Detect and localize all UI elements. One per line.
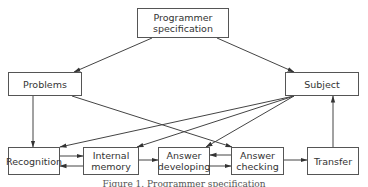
node-problems: Problems xyxy=(8,72,82,96)
figure-caption: Figure 1. Programmer specification xyxy=(0,179,368,187)
node-transfer: Transfer xyxy=(307,147,359,175)
node-answer-checking: Answer checking xyxy=(231,147,284,175)
node-internal-memory: Internal memory xyxy=(83,147,139,175)
node-answer-developing: Answer developing xyxy=(158,147,210,175)
node-subject: Subject xyxy=(285,72,359,96)
node-programmer-specification: Programmer specification xyxy=(137,8,229,38)
node-recognition: Recognition xyxy=(8,147,60,175)
